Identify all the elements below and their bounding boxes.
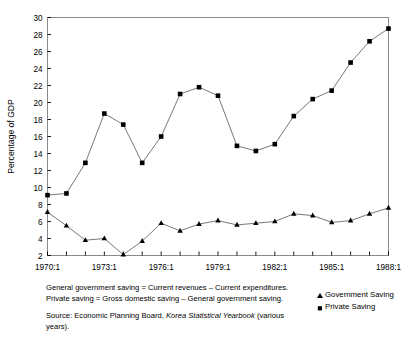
y-tick-label: 10 <box>33 184 43 193</box>
y-tick-label: 28 <box>33 31 43 40</box>
data-point-square <box>235 144 240 149</box>
y-tick-label: 2 <box>38 252 43 261</box>
note-line-2: Private saving = Gross domestic saving –… <box>46 294 286 305</box>
square-marker-icon <box>316 303 325 312</box>
data-point-square <box>64 191 69 196</box>
x-tick-label: 1979:1 <box>205 263 230 272</box>
data-point-square <box>291 114 296 119</box>
y-tick-label: 16 <box>33 133 43 142</box>
triangle-marker-icon <box>316 291 325 300</box>
x-tick-label: 1970:1 <box>35 263 60 272</box>
y-tick-label: 26 <box>33 48 43 57</box>
chart-legend: Government Saving Private Saving <box>316 289 394 314</box>
y-tick-label: 4 <box>38 235 43 244</box>
x-tick-label: 1976:1 <box>149 263 174 272</box>
y-tick-label: 24 <box>33 65 43 74</box>
note-line-1: General government saving = Current reve… <box>46 283 286 294</box>
data-point-square <box>216 93 221 98</box>
y-tick-label: 22 <box>33 82 43 91</box>
data-point-square <box>121 122 126 127</box>
y-axis-title: Percentage of GDP <box>6 99 16 174</box>
data-point-square <box>329 88 334 93</box>
y-tick-label: 30 <box>33 14 43 23</box>
legend-item-private-saving: Private Saving <box>316 301 394 313</box>
y-tick-label: 6 <box>38 218 43 227</box>
y-tick-label: 12 <box>33 167 43 176</box>
y-tick-label: 20 <box>33 99 43 108</box>
data-point-square <box>159 134 164 139</box>
data-point-square <box>140 161 145 166</box>
y-tick-label: 14 <box>33 150 43 159</box>
data-point-square <box>178 92 183 97</box>
data-point-square <box>197 85 202 90</box>
data-point-square <box>386 26 391 31</box>
data-point-square <box>83 161 88 166</box>
data-point-square <box>254 149 259 154</box>
legend-label-government-saving: Government Saving <box>325 289 394 301</box>
data-point-square <box>367 39 372 44</box>
chart-notes: General government saving = Current reve… <box>46 283 286 332</box>
source-title: Korea Statistical Yearbook <box>166 311 255 320</box>
data-point-square <box>273 142 278 147</box>
data-point-square <box>348 60 353 65</box>
figure-container: 246810121416182022242628301970:11973:119… <box>0 0 416 351</box>
source-note: Source: Economic Planning Board, Korea S… <box>46 311 286 332</box>
data-point-square <box>102 111 107 116</box>
x-tick-label: 1973:1 <box>92 263 117 272</box>
source-prefix: Source: Economic Planning Board, <box>46 311 166 320</box>
x-tick-label: 1988:1 <box>376 263 401 272</box>
data-point-square <box>310 97 315 102</box>
x-tick-label: 1982:1 <box>262 263 287 272</box>
legend-label-private-saving: Private Saving <box>325 301 375 313</box>
legend-item-government-saving: Government Saving <box>316 289 394 301</box>
y-tick-label: 8 <box>38 201 43 210</box>
data-point-square <box>45 193 50 198</box>
y-tick-label: 18 <box>33 116 43 125</box>
x-tick-label: 1985:1 <box>319 263 344 272</box>
